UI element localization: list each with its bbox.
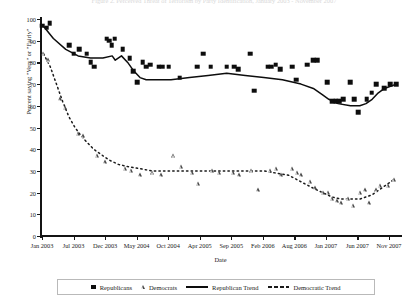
democrat-data-point <box>41 51 45 55</box>
republican-data-point <box>394 82 399 87</box>
republican-data-point <box>77 47 82 52</box>
chart-figure: Figure 2. Perceived Threat of Terrorism … <box>0 0 417 301</box>
x-tick-label: Dec 2003 <box>93 242 117 249</box>
democrat-data-point <box>179 164 183 168</box>
republican-data-point <box>135 80 140 85</box>
legend-solid-line-icon <box>186 286 208 288</box>
x-tick-label: Jun 2007 <box>346 242 369 249</box>
republican-data-point <box>112 36 117 41</box>
democrat-data-point <box>231 171 235 175</box>
republican-data-point <box>160 64 165 69</box>
democrat-data-point <box>196 182 200 186</box>
republican-data-point <box>67 43 72 48</box>
republican-data-point <box>294 77 299 82</box>
x-tick-label: Jul 2003 <box>63 242 85 249</box>
democrat-data-point <box>321 190 325 194</box>
democrat-data-point <box>274 166 278 170</box>
y-axis-title: Percent saying "Very" or "Fairly" <box>25 0 32 157</box>
republican-data-point <box>388 82 393 87</box>
republican-data-point <box>369 90 374 95</box>
democrat-data-point <box>159 173 163 177</box>
x-tick <box>137 236 138 240</box>
republican-data-point <box>72 51 77 56</box>
republican-data-point <box>131 69 136 74</box>
legend-entry[interactable]: Republican Trend <box>186 284 258 291</box>
y-tick-label: 0 <box>33 233 36 240</box>
republican-data-point <box>195 64 200 69</box>
democrat-data-point <box>268 168 272 172</box>
y-tick-label: 30 <box>30 167 36 174</box>
x-tick <box>74 236 75 240</box>
y-tick-label: 60 <box>30 102 36 109</box>
republican-data-point <box>224 64 229 69</box>
legend-square-icon <box>91 285 95 289</box>
republican-data-point <box>85 51 90 56</box>
republican-data-point <box>315 58 320 63</box>
trend-lines-layer <box>41 19 400 236</box>
x-tick <box>326 236 327 240</box>
republican-data-point <box>236 67 241 72</box>
republican-data-point <box>290 64 295 69</box>
democrat-data-point <box>217 171 221 175</box>
republican-data-point <box>44 25 49 30</box>
x-tick <box>231 236 232 240</box>
democrat-data-point <box>123 166 127 170</box>
republican-data-point <box>120 47 125 52</box>
x-tick-label: Jan 2007 <box>315 242 338 249</box>
x-tick-label: Aug 2006 <box>282 242 307 249</box>
republican-data-point <box>341 97 346 102</box>
y-tick-label: 80 <box>30 59 36 66</box>
republican-data-point <box>356 110 361 115</box>
x-tick <box>263 236 264 240</box>
democrat-data-point <box>308 179 312 183</box>
democrat-data-point <box>290 166 294 170</box>
y-tick-label: 90 <box>30 37 36 44</box>
x-tick <box>389 236 390 240</box>
legend-entry[interactable]: Democrats <box>141 284 177 291</box>
republican-data-point <box>325 80 330 85</box>
x-tick-label: May 2004 <box>124 242 150 249</box>
democrat-data-point <box>138 173 142 177</box>
x-tick-label: Nov 2007 <box>376 242 401 249</box>
democrat-data-point <box>237 173 241 177</box>
democrat-data-point <box>363 188 367 192</box>
democrat-data-point <box>330 197 334 201</box>
legend-entry[interactable]: Republicans <box>91 284 132 291</box>
democrat-data-point <box>374 188 378 192</box>
y-tick-label: 40 <box>30 146 36 153</box>
x-tick <box>357 236 358 240</box>
democrat-data-point <box>351 203 355 207</box>
republican-data-point <box>92 64 97 69</box>
democratic-trend-line <box>43 54 393 199</box>
democrat-data-point <box>103 160 107 164</box>
x-tick-label: Feb 2006 <box>251 242 275 249</box>
x-tick <box>105 236 106 240</box>
legend-label: Democratic Trend <box>293 284 340 291</box>
republican-data-point <box>374 82 379 87</box>
republican-data-point <box>201 51 206 56</box>
y-tick <box>37 236 41 237</box>
democrat-data-point <box>171 153 175 157</box>
x-tick <box>42 236 43 240</box>
republican-data-point <box>348 80 353 85</box>
republican-data-point <box>47 21 52 26</box>
democrat-data-point <box>63 106 67 110</box>
legend-triangle-icon <box>141 285 145 289</box>
democrat-data-point <box>378 184 382 188</box>
x-tick-label: Sep 2005 <box>219 242 243 249</box>
y-tick-label: 20 <box>30 189 36 196</box>
republican-data-point <box>248 51 253 56</box>
y-tick-label: 100 <box>27 16 36 23</box>
democrat-data-point <box>326 190 330 194</box>
democrat-data-point <box>46 58 50 62</box>
x-tick-label: Oct 2004 <box>157 242 180 249</box>
democrat-data-point <box>190 171 194 175</box>
democrat-data-point <box>313 186 317 190</box>
democrat-data-point <box>392 177 396 181</box>
legend-entry[interactable]: Democratic Trend <box>267 284 340 291</box>
republican-data-point <box>252 88 257 93</box>
democrat-data-point <box>358 190 362 194</box>
republican-data-point <box>352 97 357 102</box>
democrat-data-point <box>249 168 253 172</box>
y-tick-label: 50 <box>30 124 36 131</box>
